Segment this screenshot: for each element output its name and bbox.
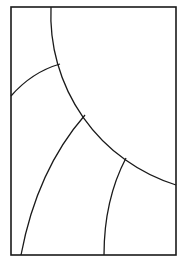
- line-diagram: [0, 0, 186, 269]
- upper-left-arc: [11, 64, 60, 96]
- middle-arc: [21, 115, 85, 255]
- main-arc: [51, 7, 176, 185]
- lower-right-arc: [104, 158, 126, 255]
